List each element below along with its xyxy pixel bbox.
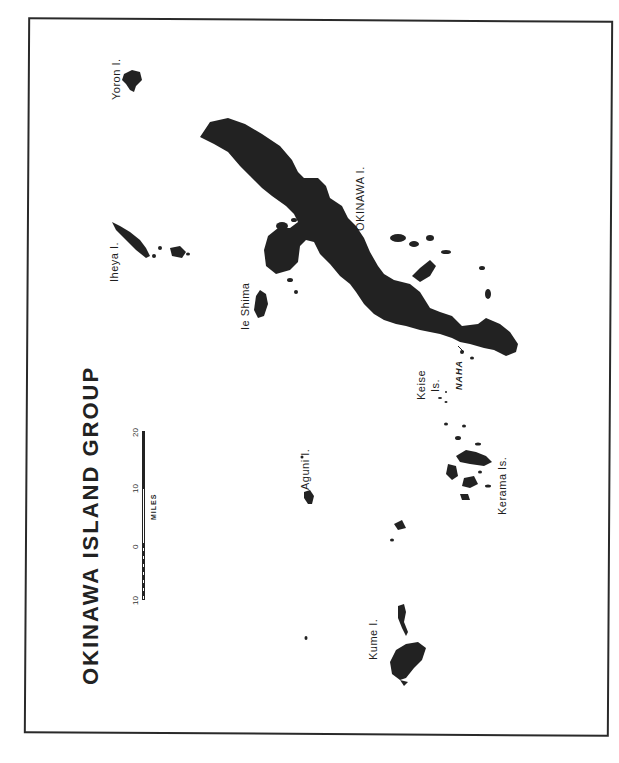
- label-keise-is: Is.: [430, 379, 441, 392]
- label-ie-shima: Ie Shima: [240, 283, 251, 330]
- label-yoron: Yoron I.: [111, 58, 122, 100]
- aguni-island: [304, 490, 314, 504]
- label-naha: NAHA: [455, 360, 464, 390]
- map-title: OKINAWA ISLAND GROUP: [80, 366, 102, 685]
- yoron-island: [122, 70, 142, 92]
- label-keise: Keise: [416, 370, 427, 400]
- scale-bar: [142, 431, 145, 600]
- scale-tick-10: 10: [132, 484, 140, 493]
- label-kume: Kume I.: [368, 619, 379, 660]
- scale-tick-20: 20: [132, 428, 140, 437]
- label-iheya: Iheya I.: [109, 242, 120, 282]
- kume-island: [390, 642, 426, 680]
- label-kerama: Kerama Is.: [497, 457, 508, 515]
- kerama-islands: [444, 423, 492, 501]
- scale-unit-label: MILES: [150, 494, 157, 520]
- ie-shima-island: [254, 290, 268, 318]
- label-aguni: Aguni I.: [300, 449, 311, 490]
- scale-tick-0: 0: [132, 545, 140, 549]
- label-okinawa: OKINAWA I.: [355, 166, 366, 231]
- scale-tick-10-left: 10: [132, 596, 140, 605]
